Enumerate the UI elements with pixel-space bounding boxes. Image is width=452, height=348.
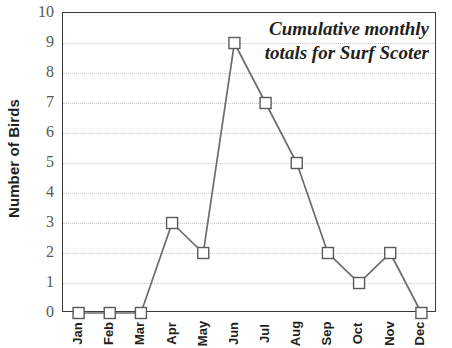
series-markers: [73, 38, 427, 319]
y-tick-label: 3: [26, 214, 54, 230]
x-axis-tick-labels: JanFebMarAprMayJunJulAugSepOctNovDec: [62, 312, 436, 348]
x-tick-label: Nov: [382, 312, 396, 348]
x-tick-label: Aug: [289, 312, 303, 348]
data-point-marker: [322, 248, 333, 259]
y-tick-label: 8: [26, 64, 54, 80]
x-tick-label: Jul: [258, 312, 272, 348]
x-tick-label: Jan: [71, 312, 85, 348]
x-tick-label: Feb: [102, 312, 116, 348]
chart-figure: Number of Birds 109876543210 Cumulative …: [0, 0, 452, 348]
x-tick-label-text: Apr: [164, 322, 179, 344]
x-tick-label-text: Jun: [226, 322, 241, 345]
x-tick-label: Dec: [413, 312, 427, 348]
data-point-marker: [167, 218, 178, 229]
y-tick-label: 5: [26, 154, 54, 170]
y-axis-tick-labels: 109876543210: [26, 0, 58, 324]
x-tick-label-text: Oct: [351, 323, 366, 345]
data-point-marker: [229, 38, 240, 49]
x-tick-label-text: Aug: [288, 321, 303, 346]
x-tick-label-text: Sep: [319, 322, 334, 346]
x-tick-label-text: Mar: [132, 322, 147, 345]
chart-title: Cumulative monthlytotals for Surf Scoter: [265, 17, 429, 66]
x-tick-label: Oct: [351, 312, 365, 348]
data-point-marker: [260, 98, 271, 109]
x-tick-label-text: May: [195, 321, 210, 346]
plot-area: Cumulative monthlytotals for Surf Scoter: [62, 12, 436, 312]
x-tick-label-text: Jul: [257, 324, 272, 343]
x-tick-label: May: [195, 312, 209, 348]
x-tick-label-text: Jan: [70, 322, 85, 344]
x-tick-label: Sep: [320, 312, 334, 348]
x-tick-label-text: Dec: [413, 322, 428, 346]
y-tick-label: 2: [26, 244, 54, 260]
chart-title-line: Cumulative monthly: [265, 17, 429, 41]
data-point-marker: [291, 158, 302, 169]
data-point-marker: [354, 278, 365, 289]
data-point-marker: [198, 248, 209, 259]
x-tick-label: Jun: [226, 312, 240, 348]
y-tick-label: 4: [26, 184, 54, 200]
series-line: [79, 43, 422, 313]
x-tick-label-text: Feb: [101, 322, 116, 345]
y-axis-title: Number of Birds: [0, 0, 26, 316]
y-tick-label: 9: [26, 34, 54, 50]
y-tick-label: 6: [26, 124, 54, 140]
x-tick-label: Apr: [164, 312, 178, 348]
y-axis-title-label: Number of Birds: [5, 98, 22, 217]
chart-title-line: totals for Surf Scoter: [265, 41, 429, 65]
x-tick-label: Mar: [133, 312, 147, 348]
x-tick-label-text: Nov: [382, 321, 397, 346]
y-tick-label: 0: [26, 304, 54, 320]
y-tick-label: 10: [26, 4, 54, 20]
y-tick-label: 7: [26, 94, 54, 110]
y-tick-label: 1: [26, 274, 54, 290]
data-point-marker: [385, 248, 396, 259]
